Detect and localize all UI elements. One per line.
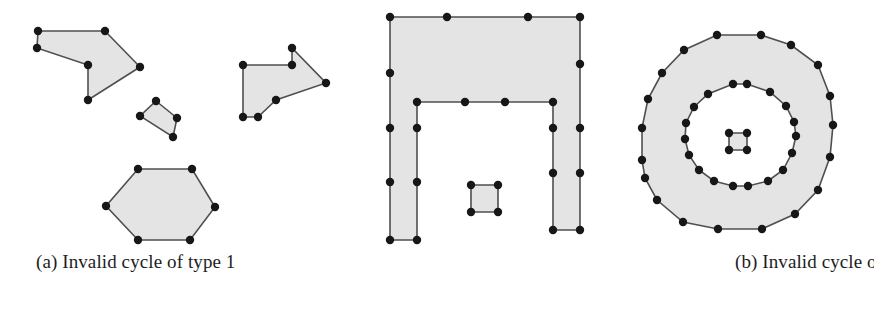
arrow-polygon-right — [243, 48, 326, 117]
vertex-dot — [211, 203, 219, 211]
vertex-dot — [413, 98, 421, 106]
small-square-inside-arch — [471, 185, 498, 212]
vertex-dot — [413, 178, 421, 186]
vertex-dot — [288, 61, 296, 69]
vertex-dot — [766, 88, 774, 96]
vertex-dot — [524, 13, 532, 21]
vertex-dot — [549, 124, 557, 132]
vertex-dot — [764, 177, 772, 185]
vertex-dot — [641, 174, 649, 182]
vertex-dot — [704, 90, 712, 98]
vertex-dot — [682, 119, 690, 127]
vertex-dot — [658, 69, 666, 77]
vertex-dot — [386, 178, 394, 186]
vertex-dot — [102, 202, 110, 210]
vertex-dot — [757, 31, 765, 39]
vertex-dot — [169, 133, 177, 141]
vertex-dot — [758, 225, 766, 233]
vertex-dot — [679, 218, 687, 226]
vertex-dot — [461, 98, 469, 106]
vertex-dot — [714, 225, 722, 233]
small-quad-center — [140, 101, 177, 137]
vertex-dot — [386, 124, 394, 132]
vertex-dot — [239, 113, 247, 121]
panel-c-diagram — [610, 0, 874, 250]
panel-a-diagram — [0, 0, 350, 250]
vertex-dot — [84, 61, 92, 69]
panel-c: (c) Invalid cycle of type 3 — [610, 0, 874, 332]
vertex-dot — [134, 165, 142, 173]
vertex-dot — [814, 61, 822, 69]
vertex-dot — [576, 13, 584, 21]
vertex-dot — [152, 97, 160, 105]
vertex-dot — [34, 27, 42, 35]
vertex-dot — [443, 13, 451, 21]
vertex-dot — [638, 156, 646, 164]
vertex-dot — [173, 114, 181, 122]
vertex-dot — [188, 165, 196, 173]
vertex-dot — [84, 96, 92, 104]
vertex-dot — [186, 236, 194, 244]
vertex-dot — [386, 69, 394, 77]
vertex-dot — [790, 118, 798, 126]
vertex-dot — [743, 129, 751, 137]
vertex-dot — [136, 112, 144, 120]
vertex-dot — [254, 113, 262, 121]
hexagon-lower-center — [106, 169, 215, 240]
panel-a: (a) Invalid cycle of type 1 — [0, 0, 350, 332]
vertex-dot — [386, 236, 394, 244]
vertex-dot — [494, 208, 502, 216]
vertex-dot — [101, 27, 109, 35]
vertex-dot — [725, 129, 733, 137]
vertex-dot — [272, 96, 280, 104]
vertex-dot — [239, 61, 247, 69]
vertex-dot — [576, 169, 584, 177]
panel-b-diagram — [350, 0, 610, 250]
vertex-dot — [729, 182, 737, 190]
vertex-dot — [829, 121, 837, 129]
vertex-dot — [467, 181, 475, 189]
vertex-dot — [322, 79, 330, 87]
vertex-dot — [695, 166, 703, 174]
vertex-dot — [782, 102, 790, 110]
vertex-dot — [814, 186, 822, 194]
vertex-dot — [549, 226, 557, 234]
vertex-dot — [710, 177, 718, 185]
vertex-dot — [787, 41, 795, 49]
vertex-dot — [826, 153, 834, 161]
panel-b: (b) Invalid cycle of type 2 — [350, 0, 610, 332]
vertex-dot — [501, 98, 509, 106]
vertex-dot — [680, 46, 688, 54]
panel-a-caption: (a) Invalid cycle of type 1 — [36, 250, 296, 274]
vertex-dot — [729, 80, 737, 88]
vertex-dot — [779, 166, 787, 174]
figure-container: (a) Invalid cycle of type 1 (b) Invalid … — [0, 0, 874, 332]
vertex-dot — [467, 208, 475, 216]
vertex-dot — [386, 13, 394, 21]
vertex-dot — [576, 124, 584, 132]
vertex-dot — [413, 236, 421, 244]
vertex-dot — [644, 95, 652, 103]
vertex-dot — [288, 44, 296, 52]
vertex-dot — [791, 210, 799, 218]
vertex-dot — [743, 80, 751, 88]
vertex-dot — [681, 135, 689, 143]
vertex-dot — [136, 63, 144, 71]
annulus-shape — [642, 35, 833, 229]
vertex-dot — [744, 182, 752, 190]
vertex-dot — [413, 124, 421, 132]
vertex-dot — [576, 226, 584, 234]
vertex-dot — [576, 60, 584, 68]
vertex-dot — [826, 92, 834, 100]
vertex-dot — [690, 103, 698, 111]
vertex-dot — [685, 151, 693, 159]
vertex-dot — [743, 146, 751, 154]
vertex-dot — [494, 181, 502, 189]
vertex-dot — [792, 132, 800, 140]
vertex-dot — [713, 31, 721, 39]
vertex-dot — [549, 169, 557, 177]
vertex-dot — [134, 236, 142, 244]
vertex-dot — [788, 149, 796, 157]
vertex-dot — [549, 98, 557, 106]
vertex-dot — [653, 196, 661, 204]
